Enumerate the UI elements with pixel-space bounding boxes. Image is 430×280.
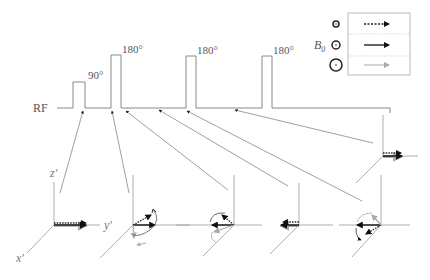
b0-label: B0 <box>314 38 325 54</box>
frame-3 <box>176 175 262 256</box>
pointer-lines <box>60 110 373 201</box>
pulse-label-180-3: 180° <box>273 44 294 56</box>
frame-2 <box>100 175 190 258</box>
x-axis-label: x′ <box>15 251 24 265</box>
rf-waveform <box>57 55 390 113</box>
y-axis-label: y′ <box>103 218 112 232</box>
spin-echo-diagram: RF 90° 180° 180° 180° B0 <box>0 0 430 280</box>
z-axis-label: z′ <box>49 166 58 180</box>
rf-label: RF <box>33 101 48 115</box>
frame-5 <box>339 175 410 257</box>
pulse-label-90: 90° <box>88 69 103 81</box>
frame-6 <box>356 115 418 183</box>
frame-4 <box>270 183 333 254</box>
legend: B0 <box>314 13 410 75</box>
pulse-label-180-2: 180° <box>197 44 218 56</box>
rf-sequence: RF 90° 180° 180° 180° <box>33 43 390 115</box>
pulse-label-180-1: 180° <box>122 43 143 55</box>
legend-box <box>348 13 410 75</box>
